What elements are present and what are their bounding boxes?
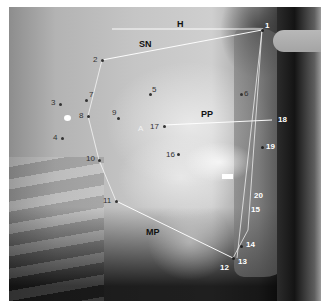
landmark-label-14: 14 xyxy=(246,241,255,249)
landmark-label-17: 17 xyxy=(150,123,159,131)
landmark-label-18: 18 xyxy=(278,116,287,124)
landmark-point-3 xyxy=(59,103,62,106)
landmark-label-10: 10 xyxy=(86,155,95,163)
landmark-label-5: 5 xyxy=(152,86,156,94)
landmark-label-9: 9 xyxy=(112,109,116,117)
reference-line-mp xyxy=(116,201,233,258)
landmark-label-20: 20 xyxy=(254,192,263,200)
landmark-label-1: 1 xyxy=(265,22,269,30)
landmark-point-7 xyxy=(85,99,88,102)
landmark-label-11: 11 xyxy=(103,197,111,205)
landmark-point-6 xyxy=(240,93,243,96)
landmark-point-16 xyxy=(177,153,180,156)
reference-label-pp: PP xyxy=(201,110,213,119)
landmark-point-17 xyxy=(163,125,166,128)
landmark-point-1 xyxy=(261,29,264,32)
landmark-point-8 xyxy=(87,115,90,118)
landmark-point-11 xyxy=(115,200,118,203)
reference-label-h: H xyxy=(177,20,184,29)
landmark-label-19: 19 xyxy=(266,143,275,151)
landmark-label-3: 3 xyxy=(51,99,55,107)
landmark-label-15: 15 xyxy=(251,206,260,214)
marker-a-label: A xyxy=(138,125,143,133)
reference-label-sn: SN xyxy=(139,40,152,49)
tracing-line xyxy=(248,30,262,230)
landmark-point-2 xyxy=(101,59,104,62)
tracing-line xyxy=(88,60,102,116)
landmark-label-7: 7 xyxy=(89,91,93,99)
landmark-label-16: 16 xyxy=(166,151,175,159)
landmark-point-13 xyxy=(232,257,235,260)
landmark-point-10 xyxy=(98,159,101,162)
landmark-point-9 xyxy=(117,117,120,120)
landmark-point-4 xyxy=(61,137,64,140)
tracing-line xyxy=(237,30,262,258)
tracing-overlay xyxy=(0,0,326,307)
landmark-point-19 xyxy=(261,146,264,149)
landmark-label-6: 6 xyxy=(244,90,248,98)
landmark-label-12: 12 xyxy=(220,264,229,272)
landmark-label-4: 4 xyxy=(53,134,57,142)
landmark-label-13: 13 xyxy=(238,258,247,266)
landmark-label-2: 2 xyxy=(93,56,97,64)
landmark-label-8: 8 xyxy=(79,112,83,120)
reference-line-sn xyxy=(102,30,262,60)
reference-label-mp: MP xyxy=(146,228,160,237)
tracing-line xyxy=(99,160,116,201)
landmark-point-14 xyxy=(240,245,243,248)
